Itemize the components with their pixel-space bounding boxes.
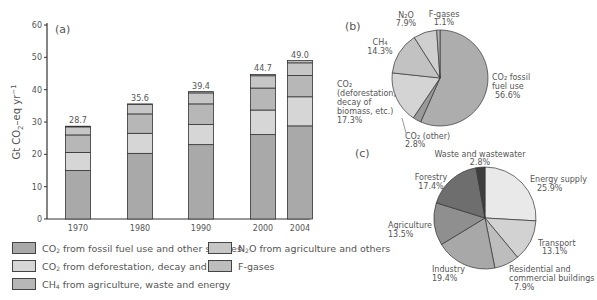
pie-slices-sector (434, 167, 536, 269)
pie-value-agriculture: 13.5% (388, 230, 414, 239)
pie-label-energy: Energy supply (530, 175, 587, 184)
panel-label-b: (b) (345, 20, 361, 33)
pie-label-deforestation-line2: (deforestation, (337, 89, 396, 98)
pie-value-industry: 19.4% (432, 274, 458, 283)
pie-slices (392, 30, 488, 126)
legend-label: F-gases (238, 261, 275, 272)
pie-value-fgases: 1.1% (434, 18, 455, 27)
panel-label-c: (c) (355, 147, 370, 160)
pie-value-deforestation: 17.3% (337, 116, 363, 125)
legend-item-n2o: N2O from agriculture and others (208, 242, 390, 254)
legend-swatch (12, 278, 36, 290)
pie-label-agriculture: Agriculture (388, 221, 432, 230)
pie-label-residential-line2: commercial buildings (509, 274, 594, 283)
pie-label-residential: Residential and (509, 265, 571, 274)
pie-label-fossil: CO₂ fossil (492, 73, 530, 82)
pie-value-co2-other: 2.8% (405, 140, 426, 149)
legend-label: CH4 from agriculture, waste and energy (42, 279, 231, 290)
pie-value-ch4: 14.3% (367, 47, 393, 56)
pie-value-fossil: 56.6% (495, 91, 521, 100)
legend-swatch (208, 260, 232, 272)
pie-label-deforestation-line3: decay of (337, 98, 371, 107)
pie-value-forestry: 17.4% (418, 182, 444, 191)
legend-swatch (12, 260, 36, 272)
pie-value-waste: 2.8% (470, 158, 491, 167)
pie-value-n2o: 7.9% (396, 19, 417, 28)
leader-line (402, 118, 406, 133)
pie-value-residential: 7.9% (514, 283, 535, 292)
pie-slice (485, 167, 536, 221)
legend-swatch (12, 242, 36, 254)
legend-item-co2-deforestation: CO2 from deforestation, decay and peat (12, 260, 231, 272)
chart-legend: CO2 from fossil fuel use and other sourc… (12, 242, 412, 300)
legend-item-fgases: F-gases (208, 260, 275, 272)
pie-label-fossil-line2: fuel use (492, 82, 524, 91)
legend-swatch (208, 242, 232, 254)
pie-label-ch4: CH₄ (373, 38, 388, 47)
pie-label-deforestation: CO₂ (337, 80, 352, 89)
pie-value-transport: 13.1% (542, 247, 568, 256)
figure: 0102030405060 28.7197035.6198039.4199044… (0, 0, 597, 300)
pie-label-forestry: Forestry (415, 173, 448, 182)
pie-label-deforestation-line4: biomass, etc.) (337, 107, 393, 116)
pie-value-energy: 25.9% (537, 184, 563, 193)
legend-label: CO2 from deforestation, decay and peat (42, 261, 231, 272)
legend-item-ch4: CH4 from agriculture, waste and energy (12, 278, 231, 290)
legend-label: N2O from agriculture and others (238, 243, 390, 254)
pie-label-industry: Industry (432, 265, 465, 274)
